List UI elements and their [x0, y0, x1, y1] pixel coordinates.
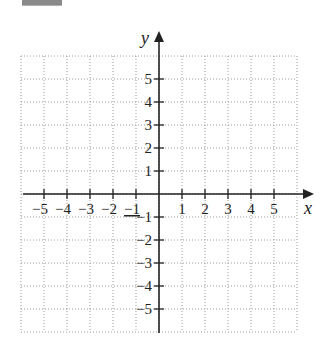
x-tick-label: 2 — [201, 201, 209, 217]
x-tick-label: 5 — [270, 201, 278, 217]
y-tick-label: 3 — [145, 117, 153, 133]
x-tick-label: −4 — [55, 201, 71, 217]
x-axis-label: x — [303, 198, 312, 218]
x-tick-label: 3 — [224, 201, 232, 217]
x-tick-label: −3 — [78, 201, 94, 217]
y-axis-arrow-icon — [154, 31, 164, 42]
y-tick-label: 4 — [145, 94, 153, 110]
x-tick-label: −2 — [101, 201, 117, 217]
x-tick-label: 4 — [247, 201, 255, 217]
x-tick-label: 1 — [178, 201, 186, 217]
y-tick-label: −4 — [136, 278, 152, 294]
y-axis-label: y — [139, 28, 149, 48]
y-tick-label: −2 — [136, 232, 152, 248]
y-tick-label: 2 — [145, 140, 153, 156]
y-tick-label: −1 — [136, 209, 152, 225]
coordinate-plane: −5−4−3−2−11234554321−1−2−3−4−5 x y — [0, 0, 328, 351]
y-tick-label: 1 — [145, 163, 153, 179]
y-tick-label: 5 — [145, 71, 153, 87]
y-tick-label: −5 — [136, 301, 152, 317]
x-tick-label: −5 — [32, 201, 48, 217]
y-tick-label: −3 — [136, 255, 152, 271]
